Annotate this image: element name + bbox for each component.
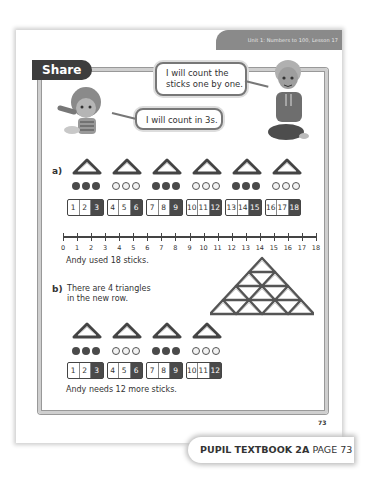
count-group: 10 11 12 [186, 199, 223, 216]
number-line-tick [204, 233, 205, 241]
bead-group-dark [232, 182, 272, 190]
bead-group-dark [152, 182, 192, 190]
part-a-triangles [72, 158, 312, 175]
stick-triangle-icon [152, 158, 182, 175]
number-line-tick [302, 233, 303, 241]
count-cell: 5 [119, 363, 131, 378]
number-line-tick-label: 1 [75, 244, 79, 252]
boy-character-icon [264, 56, 314, 144]
count-cell-highlight: 15 [249, 200, 261, 215]
number-line-tick [175, 233, 176, 241]
number-line-tick-label: 17 [298, 244, 306, 252]
girl-character-icon [52, 82, 110, 138]
count-cell: 1 [68, 200, 80, 215]
count-cell: 2 [80, 200, 92, 215]
part-b-prompt-line2: in the new row. [67, 294, 128, 304]
stick-triangle-icon [192, 322, 222, 339]
stick-triangle-icon [72, 322, 102, 339]
number-line-tick [274, 233, 275, 241]
number-line-tick-label: 0 [61, 244, 65, 252]
girl-speech-bubble: I will count in 3s. [135, 108, 223, 130]
number-line-tick-label: 14 [256, 244, 264, 252]
count-group: 1 2 3 [67, 362, 104, 379]
number-line-tick-label: 13 [242, 244, 250, 252]
count-cell: 8 [159, 200, 171, 215]
number-line-tick [91, 233, 92, 241]
count-cell-highlight: 9 [170, 200, 182, 215]
count-cell: 10 [187, 200, 199, 215]
count-cell: 1 [68, 363, 80, 378]
number-line-tick-label: 8 [173, 244, 177, 252]
number-line-tick-label: 6 [145, 244, 149, 252]
number-line-tick [288, 233, 289, 241]
count-cell: 7 [147, 200, 159, 215]
stick-triangle-icon [112, 158, 142, 175]
triangle-pyramid-icon [210, 256, 314, 318]
number-line-tick-label: 11 [213, 244, 221, 252]
part-b-beads [72, 347, 232, 355]
count-cell-highlight: 18 [289, 200, 301, 215]
count-cell-highlight: 6 [131, 200, 143, 215]
part-b-label: b) [52, 284, 63, 294]
number-line-tick [161, 233, 162, 241]
count-group: 7 8 9 [146, 199, 183, 216]
count-cell-highlight: 6 [131, 363, 143, 378]
part-a-answer: Andy used 18 sticks. [66, 256, 149, 266]
count-cell: 11 [198, 200, 210, 215]
footer-label: PUPIL TEXTBOOK 2A PAGE 73 [188, 437, 354, 463]
count-cell: 4 [108, 200, 120, 215]
part-a-beads [72, 182, 312, 190]
number-line-tick [105, 233, 106, 241]
count-cell-highlight: 12 [210, 200, 222, 215]
stick-triangle-icon [272, 158, 302, 175]
bead-group-dark [72, 182, 112, 190]
number-line-tick [63, 233, 64, 241]
footer-page: PAGE 73 [312, 444, 352, 455]
number-line-tick-label: 2 [89, 244, 93, 252]
number-line-tick-label: 3 [103, 244, 107, 252]
bead-group-light [112, 347, 152, 355]
stick-triangle-icon [192, 158, 222, 175]
number-line-tick-label: 4 [117, 244, 121, 252]
number-line-tick [260, 233, 261, 241]
count-cell-highlight: 3 [91, 200, 103, 215]
number-line-tick-label: 9 [187, 244, 191, 252]
page-number: 73 [318, 419, 326, 426]
number-line-tick-label: 16 [284, 244, 292, 252]
count-cell-highlight: 12 [210, 363, 222, 378]
count-cell: 4 [108, 363, 120, 378]
count-cell-highlight: 3 [91, 363, 103, 378]
number-line-tick [77, 233, 78, 241]
boy-speech-bubble: I will count the sticks one by one. [155, 62, 247, 96]
count-cell: 16 [266, 200, 278, 215]
number-line-tick-label: 7 [159, 244, 163, 252]
number-line-tick [232, 233, 233, 241]
section-title: Share [32, 60, 92, 80]
count-cell: 11 [198, 363, 210, 378]
part-b-answer: Andy needs 12 more sticks. [66, 385, 177, 395]
lesson-label: Unit 1: Numbers to 100, Lesson 17 [222, 37, 338, 43]
bead-group-dark [72, 347, 112, 355]
bead-group-light [192, 347, 232, 355]
count-group: 10 11 12 [186, 362, 223, 379]
count-cell: 14 [238, 200, 250, 215]
count-cell: 8 [159, 363, 171, 378]
footer-book-title: PUPIL TEXTBOOK 2A [200, 444, 309, 455]
number-line-tick-label: 15 [270, 244, 278, 252]
count-cell: 2 [80, 363, 92, 378]
number-line-tick-label: 5 [131, 244, 135, 252]
count-cell: 17 [277, 200, 289, 215]
count-group: 13 14 15 [225, 199, 262, 216]
stick-triangle-icon [112, 322, 142, 339]
count-group: 16 17 18 [265, 199, 302, 216]
count-group: 7 8 9 [146, 362, 183, 379]
count-cell: 5 [119, 200, 131, 215]
number-line-tick [119, 233, 120, 241]
count-group: 1 2 3 [67, 199, 104, 216]
number-line-tick [316, 233, 317, 241]
stick-triangle-icon [232, 158, 262, 175]
part-b-count-boxes: 1 2 3 4 5 6 7 8 9 10 11 12 [67, 362, 225, 379]
bead-group-light [112, 182, 152, 190]
number-line-tick [246, 233, 247, 241]
number-line-tick [147, 233, 148, 241]
